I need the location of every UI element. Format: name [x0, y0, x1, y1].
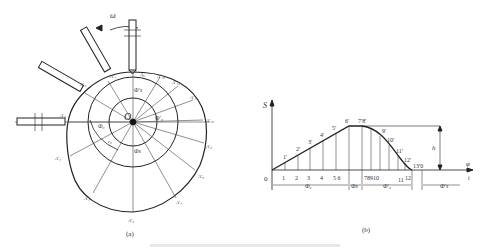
- svg-text:Φs: Φs: [134, 148, 142, 154]
- displacement-chart: S φ t 0 h 1′ 2′ 3′ 4′ 5′ 6′ 7′8′ 9′ 10′ …: [263, 100, 473, 234]
- svg-text:t: t: [468, 175, 470, 181]
- cam-figure: ω O A₀ A′₁ A′₂ A′₃ A′₄ A′₅ A′₆ A′₇ A′₈ A…: [15, 11, 214, 238]
- svg-text:r₀: r₀: [108, 139, 112, 144]
- svg-text:Φ′s: Φ′s: [134, 87, 143, 93]
- svg-text:11: 11: [398, 177, 404, 183]
- svg-text:A′₃: A′₃: [59, 113, 66, 118]
- displacement-curve: [272, 126, 412, 170]
- x-axis-arrow-icon: [467, 168, 473, 172]
- svg-text:Φ₀: Φ₀: [305, 183, 312, 189]
- svg-text:9′: 9′: [382, 128, 387, 134]
- svg-text:12: 12: [405, 175, 411, 181]
- svg-text:ω: ω: [110, 11, 116, 20]
- svg-text:Φ₀: Φ₀: [98, 123, 105, 129]
- cam-profile: [67, 72, 207, 212]
- svg-text:S: S: [263, 101, 267, 110]
- svg-text:12′: 12′: [404, 157, 412, 163]
- follower-left: [17, 118, 65, 125]
- svg-text:4′: 4′: [320, 132, 325, 138]
- svg-text:O: O: [124, 111, 131, 122]
- svg-text:2: 2: [295, 175, 298, 181]
- svg-text:A′₆: A′₆: [127, 218, 134, 223]
- figure-caption-illegible: [150, 244, 340, 247]
- svg-text:A′₁: A′₁: [109, 74, 116, 79]
- svg-text:(b): (b): [362, 226, 371, 234]
- follower-60deg: [81, 27, 111, 72]
- follower-30deg: [38, 61, 83, 91]
- svg-text:6′: 6′: [345, 118, 350, 124]
- svg-text:A′₁₁: A′₁₁: [189, 95, 198, 100]
- follower-top: [129, 20, 136, 70]
- svg-text:78910: 78910: [364, 175, 379, 181]
- svg-text:3′: 3′: [308, 139, 313, 145]
- svg-text:Φ′₀: Φ′₀: [155, 115, 163, 121]
- svg-text:11′: 11′: [396, 148, 404, 154]
- svg-text:A′₇: A′₇: [175, 200, 182, 205]
- svg-text:Φs: Φs: [351, 183, 359, 189]
- svg-text:5′: 5′: [332, 125, 337, 131]
- svg-text:1: 1: [282, 175, 285, 181]
- svg-text:5 6: 5 6: [333, 175, 341, 181]
- svg-text:0: 0: [264, 175, 268, 183]
- diagram-canvas: ω O A₀ A′₁ A′₂ A′₃ A′₄ A′₅ A′₆ A′₇ A′₈ A…: [0, 0, 482, 251]
- svg-text:h: h: [432, 144, 436, 152]
- svg-text:A′₅: A′₅: [83, 196, 90, 201]
- omega-arrowhead-icon: [96, 25, 102, 31]
- svg-text:4: 4: [320, 175, 323, 181]
- y-axis-arrow-icon: [270, 100, 274, 106]
- svg-text:A₀: A₀: [139, 72, 145, 77]
- svg-text:1′: 1′: [283, 154, 288, 160]
- svg-text:A′₈: A′₈: [197, 174, 204, 179]
- svg-text:A′₉: A′₉: [205, 144, 212, 149]
- svg-text:2′: 2′: [296, 146, 301, 152]
- svg-text:7′8′: 7′8′: [358, 118, 367, 124]
- svg-text:A′₁₂: A′₁₂: [171, 80, 180, 85]
- svg-text:Φ′₀: Φ′₀: [383, 183, 391, 189]
- svg-text:(a): (a): [126, 230, 134, 238]
- svg-text:13′0: 13′0: [413, 163, 423, 169]
- svg-text:A′₂: A′₂: [79, 82, 86, 87]
- svg-text:Φ′s: Φ′s: [440, 183, 449, 189]
- svg-text:10′: 10′: [387, 137, 395, 143]
- svg-text:φ: φ: [466, 160, 470, 168]
- svg-text:3: 3: [307, 175, 310, 181]
- svg-text:A′₄: A′₄: [54, 156, 61, 161]
- svg-text:A′₁₃: A′₁₃: [156, 74, 165, 79]
- svg-text:A′₁₀: A′₁₀: [205, 118, 214, 123]
